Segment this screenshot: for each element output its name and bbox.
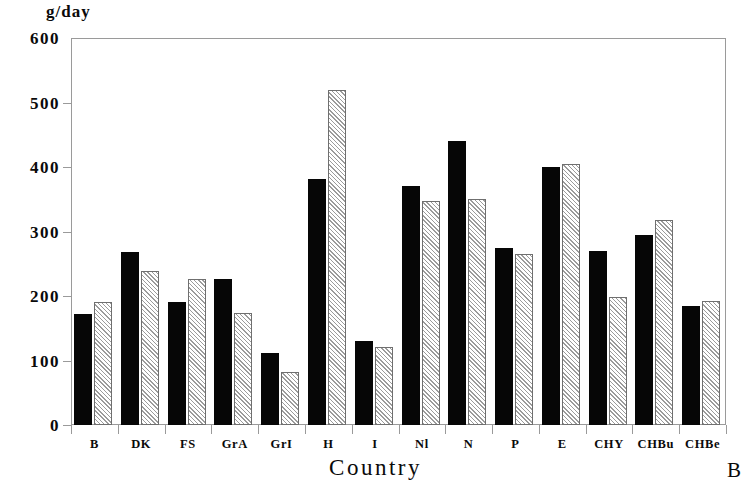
x-tick-label: FS <box>180 437 196 452</box>
x-axis-title: Country <box>0 455 751 481</box>
x-tick-mark <box>71 425 72 434</box>
bar <box>495 248 513 425</box>
bar <box>188 279 206 425</box>
bar-chart: g/day 0100200300400500600 BDKFSGrAGrIHIN… <box>0 0 751 489</box>
x-tick-label: E <box>558 437 567 452</box>
bar <box>168 302 186 425</box>
y-tick-label: 100 <box>4 352 60 369</box>
x-tick-label: N <box>464 437 474 452</box>
x-tick-mark <box>679 425 680 434</box>
bar <box>121 252 139 425</box>
bar <box>515 254 533 425</box>
bar-group <box>632 38 679 425</box>
panel-letter: B <box>727 458 741 483</box>
x-tick-label: CHBu <box>638 437 674 452</box>
bar-group <box>258 38 305 425</box>
y-tick-mark <box>63 425 72 426</box>
x-tick-mark <box>118 425 119 434</box>
x-tick-mark <box>352 425 353 434</box>
bar <box>655 220 673 425</box>
bar <box>609 297 627 425</box>
bar <box>328 90 346 425</box>
y-tick-mark <box>63 361 72 362</box>
bar <box>141 271 159 425</box>
x-tick-mark <box>726 425 727 434</box>
x-tick-label: GrI <box>271 437 293 452</box>
x-tick-label: P <box>511 437 519 452</box>
bar <box>94 302 112 425</box>
y-tick-mark <box>63 232 72 233</box>
bar <box>542 167 560 425</box>
x-tick-mark <box>165 425 166 434</box>
bar <box>448 141 466 425</box>
bar-group <box>445 38 492 425</box>
x-tick-mark <box>632 425 633 434</box>
y-tick-label: 300 <box>4 223 60 240</box>
x-tick-label: CHBe <box>685 437 720 452</box>
bar <box>261 353 279 425</box>
bar <box>214 279 232 425</box>
x-tick-label: CHY <box>594 437 624 452</box>
x-tick-label: H <box>323 437 333 452</box>
bar <box>562 164 580 425</box>
bar-group <box>352 38 399 425</box>
bar <box>702 301 720 425</box>
x-tick-mark <box>305 425 306 434</box>
bar-group <box>118 38 165 425</box>
bar <box>74 314 92 425</box>
y-tick-label: 0 <box>4 417 60 434</box>
x-tick-label: I <box>372 437 377 452</box>
y-tick-mark <box>63 167 72 168</box>
y-tick-label: 600 <box>4 30 60 47</box>
x-tick-mark <box>399 425 400 434</box>
x-tick-mark <box>586 425 587 434</box>
y-tick-label: 500 <box>4 94 60 111</box>
bar-group <box>305 38 352 425</box>
bar <box>422 201 440 425</box>
bar <box>234 313 252 425</box>
x-tick-mark <box>539 425 540 434</box>
bar <box>375 347 393 425</box>
bar <box>355 341 373 425</box>
bar <box>682 306 700 425</box>
y-tick-label: 200 <box>4 288 60 305</box>
x-tick-label: GrA <box>222 437 248 452</box>
bars-container <box>71 38 726 425</box>
x-tick-mark <box>211 425 212 434</box>
x-tick-mark <box>492 425 493 434</box>
bar <box>468 199 486 425</box>
bar-group <box>71 38 118 425</box>
x-tick-label: B <box>90 437 99 452</box>
y-tick-mark <box>63 103 72 104</box>
bar-group <box>679 38 726 425</box>
bar-group <box>586 38 633 425</box>
y-tick-label: 400 <box>4 159 60 176</box>
y-tick-mark <box>63 296 72 297</box>
bar-group <box>165 38 212 425</box>
x-tick-mark <box>445 425 446 434</box>
bar-group <box>399 38 446 425</box>
bar <box>635 235 653 425</box>
bar-group <box>492 38 539 425</box>
bar <box>402 186 420 425</box>
bar <box>281 372 299 425</box>
x-tick-mark <box>258 425 259 434</box>
bar-group <box>539 38 586 425</box>
y-axis-tick-labels: 0100200300400500600 <box>0 0 60 489</box>
x-tick-label: DK <box>131 437 151 452</box>
bar-group <box>211 38 258 425</box>
x-tick-label: Nl <box>415 437 429 452</box>
bar <box>308 179 326 425</box>
bar <box>589 251 607 425</box>
